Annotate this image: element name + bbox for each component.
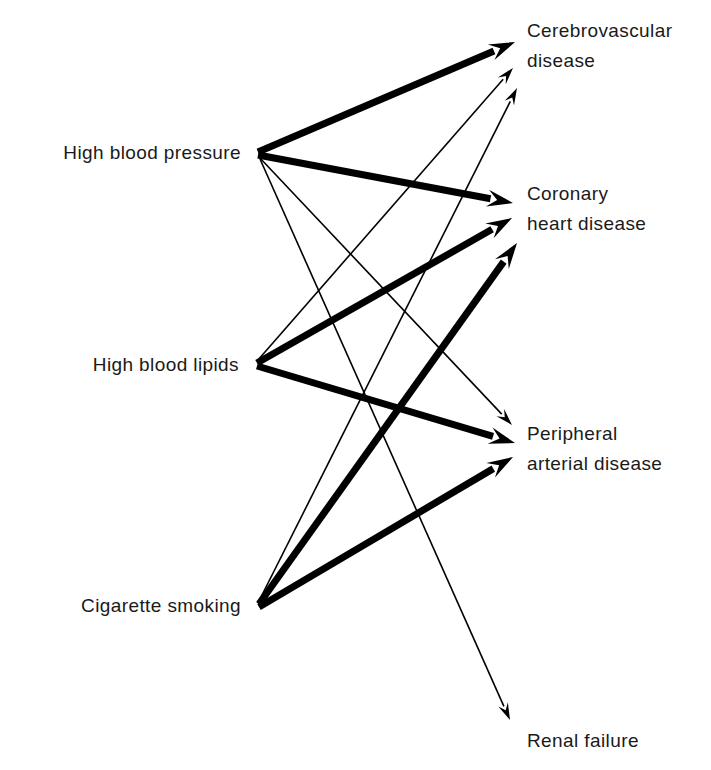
diagram-page: High blood pressure High blood lipids Ci… bbox=[0, 0, 711, 770]
arrowhead-icon bbox=[505, 88, 517, 106]
node-text-line2: arterial disease bbox=[527, 449, 662, 479]
edge-smoking-to-pad bbox=[259, 457, 513, 607]
node-text-line1: Cerebrovascular bbox=[527, 16, 672, 46]
node-label-peripheral-arterial-disease: Peripheral arterial disease bbox=[527, 419, 662, 479]
node-text-line1: Coronary bbox=[527, 179, 646, 209]
edge-lipids-to-cvd bbox=[258, 68, 513, 360]
node-label-cigarette-smoking: Cigarette smoking bbox=[0, 591, 241, 621]
edge-shaft bbox=[257, 229, 492, 363]
node-text-line2: heart disease bbox=[527, 209, 646, 239]
node-text: Cigarette smoking bbox=[81, 595, 241, 616]
edge-shaft bbox=[257, 366, 493, 436]
edge-shaft bbox=[258, 51, 494, 152]
node-label-high-blood-lipids: High blood lipids bbox=[0, 350, 239, 380]
edge-shaft bbox=[259, 469, 493, 607]
node-text-line2: disease bbox=[527, 46, 672, 76]
edge-hbp-to-chd bbox=[258, 155, 513, 207]
node-text: High blood lipids bbox=[93, 354, 239, 375]
diagram-canvas bbox=[0, 0, 711, 770]
node-text-line1: Peripheral bbox=[527, 419, 662, 449]
node-label-cerebrovascular-disease: Cerebrovascular disease bbox=[527, 16, 672, 76]
edge-layer bbox=[257, 42, 517, 720]
node-label-coronary-heart-disease: Coronary heart disease bbox=[527, 179, 646, 239]
node-text-line1: Renal failure bbox=[527, 726, 639, 756]
edge-shaft bbox=[259, 262, 504, 604]
node-label-renal-failure: Renal failure bbox=[527, 726, 639, 756]
node-label-high-blood-pressure: High blood pressure bbox=[0, 138, 241, 168]
edge-hbp-to-cvd bbox=[258, 42, 515, 152]
node-text: High blood pressure bbox=[63, 142, 241, 163]
edge-smoking-to-chd bbox=[259, 243, 517, 604]
